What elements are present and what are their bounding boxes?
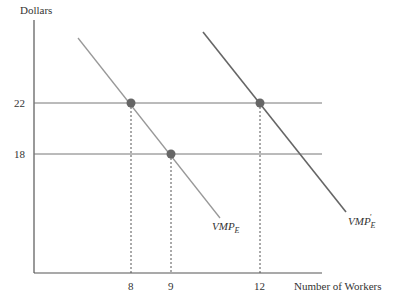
x-tick-9: 9	[168, 280, 174, 292]
vmp-e-curve	[78, 38, 220, 218]
vmp-e-prime-base: VMP	[348, 215, 371, 227]
vmp-e-prime-label: VMPE'	[348, 213, 371, 230]
point-9-18	[167, 150, 176, 159]
x-tick-12: 12	[254, 280, 265, 292]
y-axis-label: Dollars	[20, 4, 52, 16]
chart-plot	[0, 0, 399, 308]
x-tick-8: 8	[128, 280, 134, 292]
vmp-e-prime-mark: '	[370, 213, 372, 222]
vmp-e-sub: E	[235, 226, 240, 235]
y-tick-18: 18	[14, 148, 25, 160]
x-axis-label: Number of Workers	[294, 280, 382, 292]
vmp-e-prime-sub: E	[371, 221, 376, 230]
point-12-22	[256, 99, 265, 108]
point-8-22	[127, 99, 136, 108]
y-tick-22: 22	[14, 97, 25, 109]
vmp-e-base: VMP	[212, 220, 235, 232]
chart: Dollars 22 18 8 9 12 Number of Workers V…	[0, 0, 399, 308]
vmp-e-prime-curve	[203, 32, 346, 212]
vmp-e-label: VMPE	[212, 220, 240, 235]
